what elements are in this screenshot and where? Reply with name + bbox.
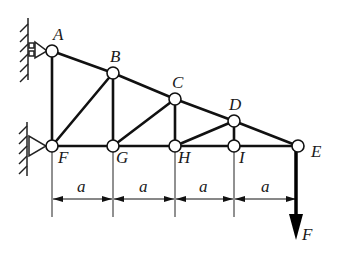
joint-c bbox=[169, 93, 181, 105]
label-f: F bbox=[57, 148, 69, 167]
dimension-label-4: a bbox=[261, 177, 270, 196]
joint-e bbox=[292, 140, 304, 152]
load-arrow bbox=[289, 146, 303, 240]
member-cd bbox=[175, 99, 234, 121]
joint-d bbox=[228, 115, 240, 127]
dimension-label-2: a bbox=[139, 177, 148, 196]
label-g: G bbox=[116, 148, 128, 167]
dimension-label-3: a bbox=[199, 177, 208, 196]
member-hd bbox=[175, 121, 234, 146]
member-de bbox=[234, 121, 298, 146]
label-e: E bbox=[310, 142, 322, 161]
member-gc bbox=[113, 99, 175, 146]
wall-bottom bbox=[19, 122, 27, 176]
wall-top bbox=[20, 18, 28, 82]
joint-f bbox=[46, 140, 58, 152]
label-i: I bbox=[238, 148, 246, 167]
dimension-label-1: a bbox=[77, 177, 86, 196]
label-c: C bbox=[172, 73, 184, 92]
member-ab bbox=[52, 51, 113, 73]
member-bc bbox=[113, 73, 175, 99]
roller-support-a bbox=[29, 42, 47, 58]
label-d: D bbox=[228, 95, 242, 114]
joint-b bbox=[107, 67, 119, 79]
joint-a bbox=[46, 45, 58, 57]
label-load-f: F bbox=[301, 225, 313, 244]
member-fb bbox=[52, 73, 113, 146]
truss-diagram: A B C D E F G H I F a a a a bbox=[0, 0, 344, 256]
label-h: H bbox=[177, 148, 192, 167]
pin-support-f bbox=[29, 136, 46, 156]
label-b: B bbox=[110, 47, 121, 66]
label-a: A bbox=[52, 25, 64, 44]
